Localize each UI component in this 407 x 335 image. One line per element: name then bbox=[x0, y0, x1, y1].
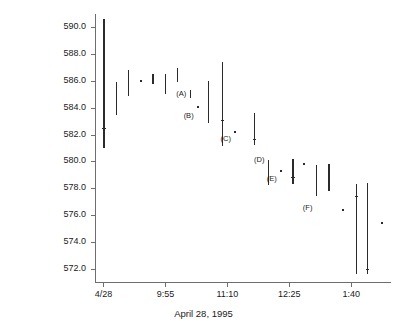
x-tick-label: 4/28 bbox=[95, 289, 113, 299]
y-tick-label: 578.0 bbox=[0, 183, 86, 192]
y-tick-label-text: 574.0 bbox=[0, 237, 86, 246]
y-tick bbox=[91, 108, 95, 109]
y-tick bbox=[91, 215, 95, 216]
y-tick-label-text: 572.0 bbox=[0, 264, 86, 273]
x-tick-label: 12:25 bbox=[278, 289, 301, 299]
price-point-marker bbox=[342, 209, 344, 211]
close-tick-mark bbox=[366, 269, 369, 270]
price-point-marker bbox=[381, 222, 383, 224]
price-range-bar bbox=[165, 74, 166, 94]
y-tick-label: 576.0 bbox=[0, 210, 86, 219]
y-tick-label: 584.0 bbox=[0, 103, 86, 112]
bar-annotation-label: (C) bbox=[221, 135, 231, 143]
price-chart-figure: 572.0574.0576.0578.0580.0582.0584.0586.0… bbox=[0, 0, 407, 335]
bar-annotation-label: (D) bbox=[254, 156, 264, 164]
price-range-bar bbox=[152, 74, 153, 83]
price-range-bar bbox=[316, 165, 317, 196]
bar-annotation-label: (E) bbox=[267, 175, 277, 183]
y-tick-label: 586.0 bbox=[0, 76, 86, 85]
price-point-marker bbox=[280, 170, 282, 172]
y-tick-label-text: 580.0 bbox=[0, 156, 86, 165]
bar-annotation-label: (F) bbox=[303, 204, 313, 212]
price-range-bar bbox=[116, 82, 117, 116]
price-range-bar bbox=[367, 183, 368, 274]
y-tick-label-text: 578.0 bbox=[0, 183, 86, 192]
y-tick-label-text: 584.0 bbox=[0, 103, 86, 112]
x-tick-label: 1:40 bbox=[343, 289, 361, 299]
price-range-bar bbox=[254, 113, 255, 145]
y-tick bbox=[91, 81, 95, 82]
close-tick-mark bbox=[291, 177, 294, 178]
y-tick bbox=[91, 54, 95, 55]
close-tick-mark bbox=[253, 139, 256, 140]
y-tick-label: 572.0 bbox=[0, 264, 86, 273]
y-tick bbox=[91, 135, 95, 136]
y-tick-label: 574.0 bbox=[0, 237, 86, 246]
price-range-bar bbox=[190, 90, 191, 98]
close-tick-mark bbox=[355, 196, 358, 197]
y-tick-label: 582.0 bbox=[0, 130, 86, 139]
y-tick-label-text: 588.0 bbox=[0, 49, 86, 58]
price-range-bar bbox=[208, 81, 209, 123]
price-point-marker bbox=[140, 80, 142, 82]
close-tick-mark bbox=[221, 120, 224, 121]
x-tick bbox=[351, 283, 352, 287]
bar-annotation-label: (B) bbox=[184, 112, 194, 120]
price-point-marker bbox=[303, 163, 305, 165]
x-tick-label: 11:10 bbox=[216, 289, 238, 299]
y-tick bbox=[91, 27, 95, 28]
y-tick-label-text: 590.0 bbox=[0, 22, 86, 31]
price-range-bar bbox=[177, 68, 178, 81]
x-tick bbox=[289, 283, 290, 287]
x-tick bbox=[165, 283, 166, 287]
close-tick-mark bbox=[102, 128, 105, 129]
y-tick-label-text: 582.0 bbox=[0, 130, 86, 139]
y-tick bbox=[91, 242, 95, 243]
price-point-marker bbox=[234, 131, 236, 133]
y-tick-label: 588.0 bbox=[0, 49, 86, 58]
plot-area bbox=[96, 14, 391, 282]
x-tick bbox=[227, 283, 228, 287]
y-tick bbox=[91, 188, 95, 189]
y-tick bbox=[91, 269, 95, 270]
price-range-bar bbox=[128, 70, 129, 96]
x-tick-label: 9:55 bbox=[157, 289, 175, 299]
y-tick-label-text: 576.0 bbox=[0, 210, 86, 219]
price-range-bar bbox=[292, 159, 293, 184]
x-tick bbox=[103, 283, 104, 287]
y-tick-label: 590.0 bbox=[0, 22, 86, 31]
y-tick-label: 580.0 bbox=[0, 156, 86, 165]
bar-annotation-label: (A) bbox=[176, 90, 186, 98]
price-range-bar bbox=[328, 164, 329, 191]
y-tick-label-text: 586.0 bbox=[0, 76, 86, 85]
y-tick bbox=[91, 161, 95, 162]
x-axis-line bbox=[95, 282, 391, 283]
x-axis-title: April 28, 1995 bbox=[0, 308, 407, 319]
price-point-marker bbox=[197, 106, 199, 108]
